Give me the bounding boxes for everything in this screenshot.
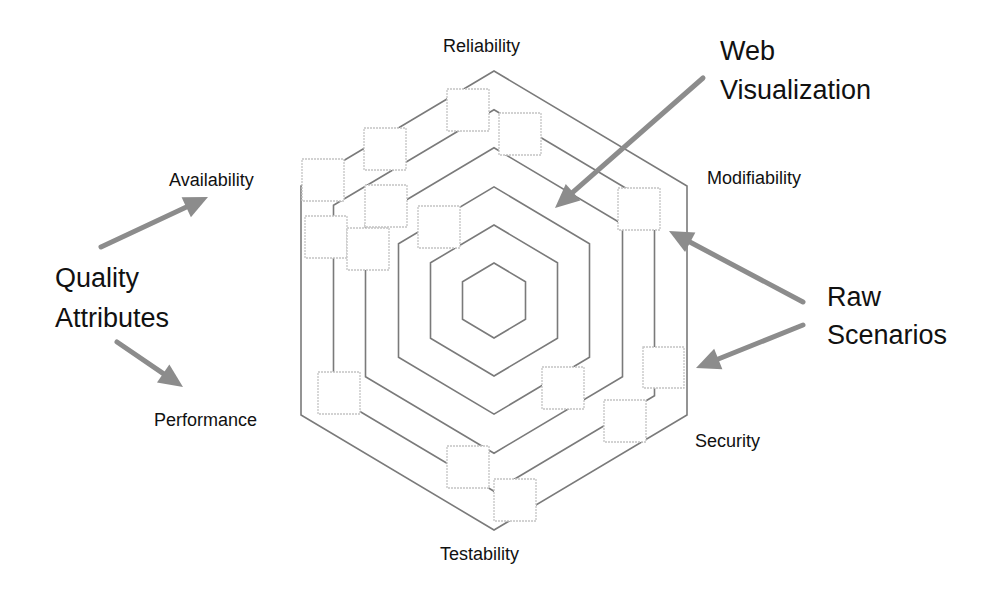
axis-label-performance: Performance	[154, 410, 257, 430]
quality-to-performance-arrow	[117, 342, 183, 387]
axis-label-availability: Availability	[169, 170, 254, 190]
raw-scenario-box	[499, 113, 541, 155]
ring-6	[463, 263, 526, 338]
axis-label-reliability: Reliability	[443, 36, 520, 56]
raw-scenario-box	[305, 216, 347, 258]
arrow-shaft	[101, 206, 188, 247]
callout-line: Attributes	[55, 303, 169, 333]
raw-scenario-box	[447, 446, 489, 488]
diagram-canvas: ReliabilityModifiabilitySecurityTestabil…	[0, 0, 1007, 590]
callout-line: Scenarios	[827, 320, 947, 350]
arrow-head-icon	[157, 364, 183, 387]
axis-label-testability: Testability	[440, 544, 519, 564]
callout-raw-scenarios: RawScenarios	[827, 282, 947, 350]
quality-to-availability-arrow	[101, 197, 208, 247]
raw-scenario-box	[447, 89, 489, 131]
axis-label-security: Security	[695, 431, 760, 451]
callout-web-visualization: WebVisualization	[720, 36, 871, 105]
raw-scenario-box	[604, 400, 646, 442]
axis-label-modifiability: Modifiability	[707, 168, 801, 188]
callout-line: Web	[720, 36, 775, 66]
callout-quality-attributes: QualityAttributes	[55, 263, 169, 333]
raw-scenario-box	[542, 367, 584, 409]
raw-scenario-box	[643, 347, 684, 388]
arrow-shaft	[117, 342, 165, 375]
arrow-shaft	[572, 78, 703, 193]
raw-scenario-box	[364, 128, 406, 170]
raw-scenario-box	[302, 159, 344, 201]
raw-scenario-box	[365, 185, 407, 227]
raw-scenario-box	[494, 479, 536, 521]
raw-scenario-box	[618, 188, 660, 230]
raw-scenario-box	[418, 206, 460, 248]
raw-to-security-arrow	[696, 325, 803, 369]
callout-line: Visualization	[720, 75, 871, 105]
arrow-shaft	[716, 325, 803, 360]
raw-scenario-boxes	[302, 89, 684, 521]
callout-labels: WebVisualizationQualityAttributesRawScen…	[55, 36, 947, 350]
callout-line: Quality	[55, 263, 140, 293]
callout-line: Raw	[827, 282, 882, 312]
arrow-shaft	[688, 241, 803, 302]
quality-attribute-web-diagram: ReliabilityModifiabilitySecurityTestabil…	[0, 0, 1007, 590]
raw-scenario-box	[347, 228, 389, 270]
raw-to-modifiability-arrow	[669, 231, 803, 302]
raw-scenario-box	[318, 372, 360, 414]
